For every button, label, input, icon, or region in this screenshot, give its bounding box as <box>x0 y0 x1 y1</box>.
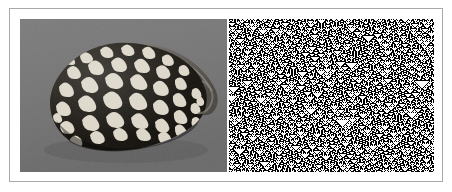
figure-root <box>0 0 452 192</box>
shell-photo-image <box>20 19 227 172</box>
shell-photo-panel <box>20 19 227 172</box>
photo-grain <box>20 19 227 172</box>
cellular-automaton-panel <box>229 19 434 172</box>
cellular-automaton-image <box>229 19 434 172</box>
